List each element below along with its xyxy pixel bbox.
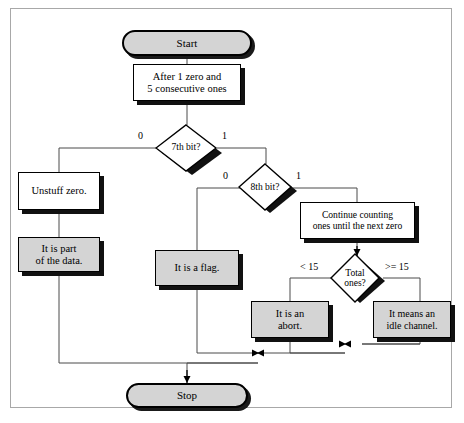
is-a-flag-label: It is a flag. — [175, 262, 220, 274]
idle-channel-process[interactable]: It means an idle channel. — [373, 301, 451, 338]
unstuff-zero-process[interactable]: Unstuff zero. — [18, 172, 100, 210]
stop-terminal[interactable]: Stop — [126, 383, 248, 408]
stop-label: Stop — [177, 389, 197, 401]
is-an-abort-process[interactable]: It is an abort. — [251, 301, 329, 338]
continue-counting-line1: Continue counting — [322, 210, 393, 221]
edge-label-seventh-one: 1 — [222, 130, 227, 141]
is-a-flag-process[interactable]: It is a flag. — [155, 250, 239, 286]
start-terminal[interactable]: Start — [122, 30, 252, 56]
edge-label-total-lt15: < 15 — [300, 261, 318, 272]
edge-label-eighth-zero: 0 — [223, 170, 228, 181]
idle-channel-line1: It means an — [389, 308, 435, 319]
after-zero-line1: After 1 zero and — [153, 71, 222, 83]
idle-channel-line2: idle channel. — [386, 320, 437, 331]
continue-counting-line2: ones until the next zero — [313, 221, 403, 232]
is-an-abort-line1: It is an — [276, 308, 305, 320]
continue-counting-process[interactable]: Continue counting ones until the next ze… — [300, 202, 415, 239]
edge-label-seventh-zero: 0 — [138, 130, 143, 141]
seventh-bit-decision[interactable]: 7th bit? — [155, 122, 223, 176]
eighth-bit-decision[interactable]: 8th bit? — [238, 161, 300, 215]
after-zero-line2: 5 consecutive ones — [147, 83, 226, 95]
edge-label-total-ge15: >= 15 — [385, 261, 409, 272]
unstuff-zero-label: Unstuff zero. — [31, 185, 86, 197]
edge-label-eighth-one: 1 — [296, 170, 301, 181]
part-of-data-line1: It is part — [42, 243, 77, 255]
is-an-abort-line2: abort. — [278, 320, 302, 332]
flowchart-canvas: Start After 1 zero and 5 consecutive one… — [0, 0, 464, 423]
start-label: Start — [177, 37, 198, 49]
total-ones-decision[interactable]: Total ones? — [329, 251, 387, 305]
part-of-data-process[interactable]: It is part of the data. — [18, 237, 100, 272]
after-zero-process[interactable]: After 1 zero and 5 consecutive ones — [133, 64, 241, 101]
part-of-data-line2: of the data. — [36, 255, 83, 267]
